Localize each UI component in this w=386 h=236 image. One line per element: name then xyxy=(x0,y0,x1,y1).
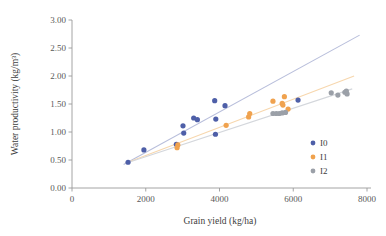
data-point xyxy=(175,142,180,147)
data-point xyxy=(195,117,200,122)
y-tick-label: 1.00 xyxy=(50,127,66,137)
data-point xyxy=(283,110,288,115)
chart-container: 0.000.501.001.502.002.503.00 02000400060… xyxy=(0,0,386,236)
scatter-chart: 0.000.501.001.502.002.503.00 02000400060… xyxy=(0,0,386,236)
y-axis-title: Water productivity (kg/m³) xyxy=(10,53,21,155)
y-tick-label: 0.00 xyxy=(50,183,66,193)
trendline-i2 xyxy=(127,89,352,163)
x-axis-title: Grain yield (kg/ha) xyxy=(184,216,257,227)
y-tick-label: 3.00 xyxy=(50,15,66,25)
axis-group xyxy=(72,20,371,188)
legend-marker-i0 xyxy=(311,141,316,146)
y-tick-label: 1.50 xyxy=(50,99,66,109)
data-point xyxy=(141,147,146,152)
x-tick-label: 4000 xyxy=(211,194,230,204)
data-point xyxy=(213,117,218,122)
data-point xyxy=(270,99,275,104)
legend-marker-i2 xyxy=(311,169,316,174)
y-tick-label: 2.50 xyxy=(50,43,66,53)
data-point xyxy=(247,111,252,116)
x-tick-label: 0 xyxy=(70,194,75,204)
data-point xyxy=(212,98,217,103)
data-point xyxy=(282,94,287,99)
data-point xyxy=(181,131,186,136)
data-point xyxy=(280,103,285,108)
data-point xyxy=(224,123,229,128)
legend-label-i2: I2 xyxy=(320,166,328,176)
x-tick-label: 2000 xyxy=(137,194,156,204)
x-tick-label: 6000 xyxy=(284,194,303,204)
y-tick-labels: 0.000.501.001.502.002.503.00 xyxy=(50,15,66,193)
y-tick-label: 2.00 xyxy=(50,71,66,81)
data-point xyxy=(295,97,300,102)
data-point xyxy=(222,103,227,108)
legend-label-i0: I0 xyxy=(320,138,328,148)
x-tick-labels: 02000400060008000 xyxy=(70,194,377,204)
y-tick-label: 0.50 xyxy=(50,155,66,165)
legend-marker-i1 xyxy=(311,155,316,160)
trendline-i1 xyxy=(125,76,354,163)
data-point xyxy=(180,123,185,128)
data-point xyxy=(344,91,349,96)
data-point xyxy=(329,90,334,95)
chart-legend: I0I1I2 xyxy=(311,138,328,176)
legend-label-i1: I1 xyxy=(320,152,328,162)
data-point xyxy=(125,160,130,165)
data-point xyxy=(213,132,218,137)
data-point xyxy=(335,92,340,97)
x-tick-marks xyxy=(72,188,367,192)
y-tick-marks xyxy=(69,20,73,188)
x-tick-label: 8000 xyxy=(358,194,377,204)
